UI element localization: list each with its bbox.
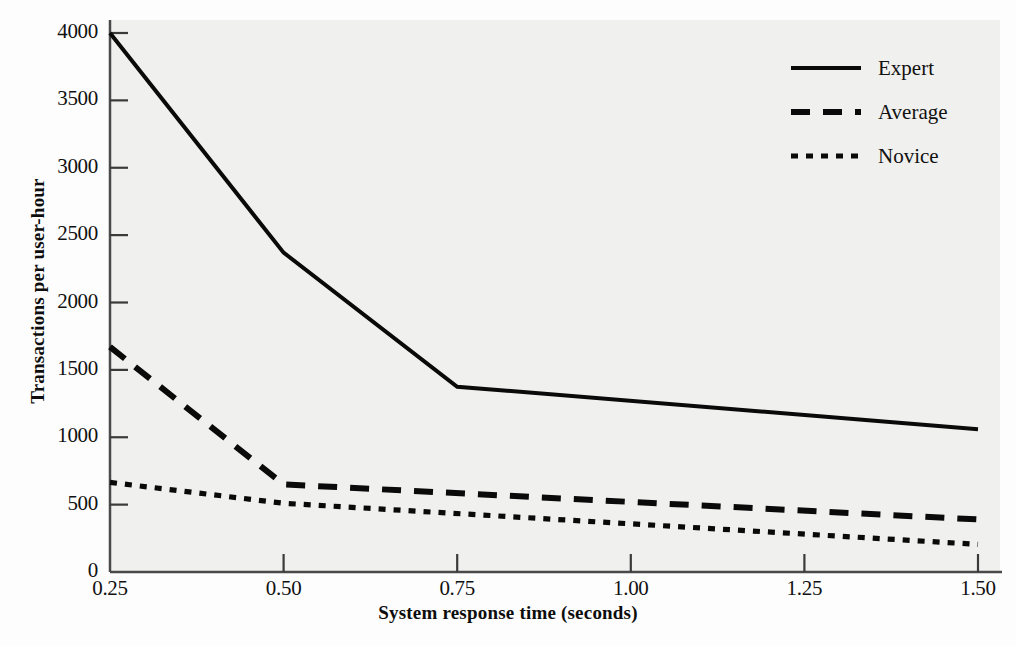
legend-item-expert: Expert [790,46,1000,90]
y-tick-label: 1000 [28,423,98,448]
x-tick-label: 0.75 [412,576,502,601]
legend-swatch-dashed [790,105,862,119]
legend-swatch-dotted [790,149,862,163]
x-tick-label: 1.25 [759,576,849,601]
legend-item-novice: Novice [790,134,1000,178]
y-tick-label: 3500 [28,86,98,111]
x-tick-label: 1.50 [933,576,1016,601]
y-tick-label: 4000 [28,19,98,44]
x-tick-label: 0.50 [239,576,329,601]
legend-label: Novice [878,144,939,169]
x-axis-title: System response time (seconds) [0,602,1016,624]
x-tick-label: 1.00 [586,576,676,601]
legend-label: Expert [878,56,934,81]
legend-label: Average [878,100,948,125]
legend-item-average: Average [790,90,1000,134]
series-line-average [110,347,978,519]
legend-swatch-solid [790,61,862,75]
y-tick-label: 500 [28,491,98,516]
y-axis-title: Transactions per user-hour [27,161,49,421]
chart-legend: ExpertAverageNovice [790,46,1000,178]
chart-figure: 05001000150020002500300035004000 0.250.5… [0,0,1016,646]
x-tick-label: 0.25 [65,576,155,601]
